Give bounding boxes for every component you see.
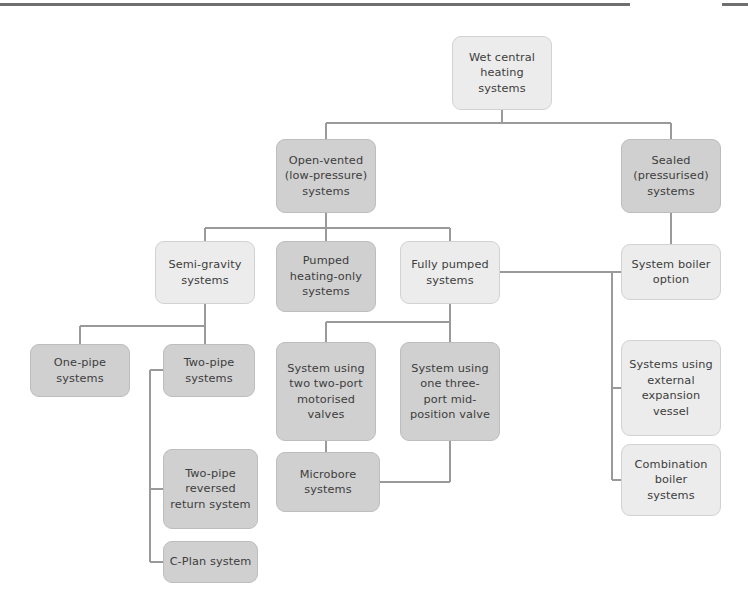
node-three-port-valve[interactable]: System using one three- port mid- positi… [400,342,500,441]
node-pumped-heating-only[interactable]: Pumped heating-only systems [276,241,376,312]
node-external-expansion-vessel[interactable]: Systems using external expansion vessel [621,340,721,436]
node-two-pipe-label: Two-pipe systems [169,355,249,386]
node-fully-pumped-label: Fully pumped systems [406,257,494,288]
node-two-port-valves[interactable]: System using two two-port motorised valv… [276,342,376,441]
node-external-expansion-vessel-label: Systems using external expansion vessel [627,357,715,419]
node-fully-pumped[interactable]: Fully pumped systems [400,241,500,304]
diagram-canvas: Wet central heating systems Open-vented … [0,0,748,605]
node-reversed-return[interactable]: Two-pipe reversed return system [163,449,258,529]
node-root[interactable]: Wet central heating systems [452,36,552,110]
node-one-pipe-label: One-pipe systems [36,355,124,386]
node-two-port-valves-label: System using two two-port motorised valv… [282,361,370,423]
node-c-plan-label: C-Plan system [169,554,252,570]
node-c-plan[interactable]: C-Plan system [163,541,258,583]
node-system-boiler-option[interactable]: System boiler option [621,244,721,300]
node-system-boiler-option-label: System boiler option [627,257,715,288]
node-pumped-heating-only-label: Pumped heating-only systems [282,253,370,300]
node-open-vented[interactable]: Open-vented (low-pressure) systems [276,139,376,213]
node-microbore[interactable]: Microbore systems [276,452,380,512]
node-sealed[interactable]: Sealed (pressurised) systems [621,139,721,213]
node-root-label: Wet central heating systems [458,50,546,97]
node-three-port-valve-label: System using one three- port mid- positi… [406,361,494,423]
node-sealed-label: Sealed (pressurised) systems [627,153,715,200]
node-one-pipe[interactable]: One-pipe systems [30,344,130,397]
node-reversed-return-label: Two-pipe reversed return system [169,466,252,513]
node-microbore-label: Microbore systems [282,467,374,498]
node-semi-gravity-label: Semi-gravity systems [161,257,249,288]
node-open-vented-label: Open-vented (low-pressure) systems [282,153,370,200]
node-two-pipe[interactable]: Two-pipe systems [163,344,255,397]
node-combination-boiler[interactable]: Combination boiler systems [621,444,721,516]
node-combination-boiler-label: Combination boiler systems [627,457,715,504]
node-semi-gravity[interactable]: Semi-gravity systems [155,241,255,304]
